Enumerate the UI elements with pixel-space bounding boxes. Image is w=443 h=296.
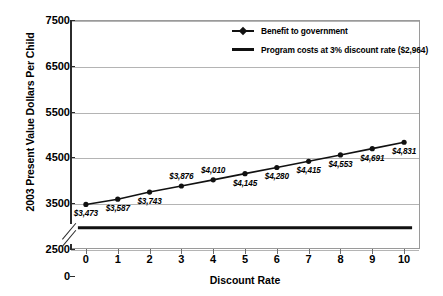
x-tick-mark	[404, 249, 405, 254]
x-tick-mark	[86, 249, 87, 254]
y-tick-mark	[70, 20, 75, 21]
x-tick-mark	[277, 249, 278, 254]
data-point-label: $4,691	[360, 154, 384, 163]
x-tick-label: 6	[262, 253, 292, 265]
legend-label-benefit: Benefit to government	[261, 26, 348, 36]
x-tick-mark	[245, 249, 246, 254]
data-point-label: $4,415	[297, 166, 321, 175]
y-tick-mark	[70, 112, 75, 113]
data-point-label: $4,553	[328, 160, 352, 169]
x-tick-label: 2	[135, 253, 165, 265]
axis-break-icon	[62, 222, 82, 246]
y-tick-label: 6500	[24, 60, 70, 72]
data-point-label: $3,473	[74, 209, 98, 218]
gridline	[71, 113, 419, 114]
y-tick-mark	[70, 203, 75, 204]
thick-line-icon	[230, 44, 256, 56]
gridline	[71, 67, 419, 68]
y-tick-label: 7500	[24, 14, 70, 26]
data-point-label: $3,876	[169, 172, 193, 181]
legend: Benefit to government Program costs at 3…	[230, 22, 420, 60]
data-point-label: $4,831	[392, 147, 416, 156]
x-tick-mark	[213, 249, 214, 254]
line-marker-icon	[230, 25, 256, 37]
x-tick-label: 1	[103, 253, 133, 265]
data-point-label: $4,010	[201, 166, 225, 175]
x-tick-mark	[340, 249, 341, 254]
legend-item-benefit: Benefit to government	[230, 24, 348, 38]
y-tick-label: 3500	[24, 197, 70, 209]
x-tick-label: 0	[71, 253, 101, 265]
legend-label-program-costs: Program costs at 3% discount rate ($2,96…	[261, 45, 428, 55]
x-tick-label: 4	[198, 253, 228, 265]
data-point-label: $3,587	[106, 204, 130, 213]
data-point-label: $3,743	[137, 197, 161, 206]
y-tick-mark	[70, 249, 75, 250]
y-tick-mark	[70, 66, 75, 67]
x-tick-label: 3	[166, 253, 196, 265]
y-axis-ticks: 0250035004500550065007500	[14, 0, 70, 296]
data-point-label: $4,145	[233, 179, 257, 188]
x-tick-label: 7	[294, 253, 324, 265]
y-tick-label: 0	[24, 270, 70, 282]
x-tick-mark	[181, 249, 182, 254]
legend-item-program-costs: Program costs at 3% discount rate ($2,96…	[230, 43, 428, 57]
x-tick-label: 9	[357, 253, 387, 265]
data-point-label: $4,280	[265, 172, 289, 181]
x-tick-mark	[309, 249, 310, 254]
chart-container: 2003 Present Value Dollars Per Child 025…	[0, 0, 443, 296]
y-tick-label: 5500	[24, 106, 70, 118]
y-tick-label: 4500	[24, 151, 70, 163]
x-axis-title: Discount Rate	[70, 274, 420, 286]
y-tick-mark	[70, 157, 75, 158]
y-axis-spine	[70, 20, 72, 249]
x-tick-label: 8	[325, 253, 355, 265]
x-tick-label: 5	[230, 253, 260, 265]
x-tick-label: 10	[389, 253, 419, 265]
x-tick-mark	[118, 249, 119, 254]
x-tick-mark	[150, 249, 151, 254]
x-tick-mark	[372, 249, 373, 254]
